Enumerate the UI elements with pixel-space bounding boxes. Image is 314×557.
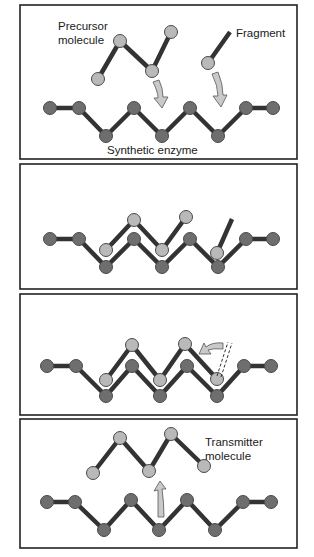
fragment-label: Fragment xyxy=(236,27,286,39)
panel-step-4: Transmitter molecule xyxy=(20,419,297,548)
panel-step-2 xyxy=(20,164,297,289)
precursor-label: Precursor xyxy=(58,20,108,32)
precursor-label-line2: molecule xyxy=(58,34,104,46)
panel-step-3 xyxy=(20,294,297,415)
enzyme-synthesis-diagram: Precursor molecule Fragment Synthetic en… xyxy=(0,0,314,557)
transmitter-label: Transmitter xyxy=(205,436,263,448)
transmitter-label-line2: molecule xyxy=(205,450,251,462)
synthetic-enzyme-label: Synthetic enzyme xyxy=(107,144,198,156)
panel-step-1: Precursor molecule Fragment Synthetic en… xyxy=(20,5,297,159)
